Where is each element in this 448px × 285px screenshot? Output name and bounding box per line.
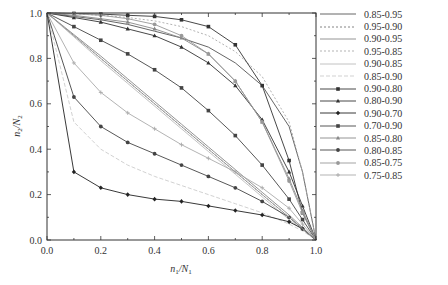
data-point: [207, 52, 211, 56]
data-point: [234, 134, 238, 138]
data-point: [233, 79, 237, 83]
y-tick-label: 0.2: [30, 189, 43, 200]
chart-legend: 0.85-0.950.95-0.900.90-0.950.95-0.850.90…: [318, 8, 402, 181]
x-tick-label: 0.2: [95, 245, 108, 256]
legend-swatch-icon: [318, 22, 358, 32]
legend-swatch-icon: [318, 84, 358, 94]
data-point: [233, 186, 237, 190]
legend-swatch-icon: [318, 59, 358, 69]
data-point: [72, 170, 76, 175]
legend-label: 0.90-0.85: [364, 58, 402, 69]
legend-item: 0.90-0.85: [318, 58, 402, 70]
legend-item: 0.90-0.95: [318, 33, 402, 45]
y-tick-label: 0.8: [30, 53, 43, 64]
data-point: [301, 211, 305, 215]
legend-marker-icon: [336, 173, 340, 177]
data-point: [206, 204, 210, 209]
data-point: [126, 140, 130, 144]
legend-swatch-icon: [318, 71, 358, 81]
legend-item: 0.85-0.90: [318, 70, 402, 82]
legend-label: 0.95-0.85: [364, 46, 402, 57]
legend-swatch-icon: [318, 34, 358, 44]
x-tick-label: 0.0: [41, 245, 54, 256]
legend-marker-icon: [336, 124, 340, 128]
data-point: [260, 120, 264, 124]
data-point: [260, 84, 264, 88]
legend-label: 0.90-0.95: [364, 33, 402, 44]
legend-marker-icon: [336, 149, 340, 153]
data-point: [126, 17, 130, 21]
legend-swatch-icon: [318, 158, 358, 168]
legend-label: 0.70-0.90: [364, 120, 402, 131]
data-point: [153, 68, 157, 72]
data-point: [207, 25, 211, 29]
y-tick-label: 0.4: [30, 144, 43, 155]
legend-label: 0.85-0.80: [364, 133, 402, 144]
legend-item: 0.95-0.90: [318, 20, 402, 32]
data-point: [99, 185, 103, 190]
data-point: [99, 125, 103, 129]
data-point: [207, 175, 211, 179]
legend-marker-icon: [336, 87, 340, 91]
legend-swatch-icon: [318, 46, 358, 56]
data-point: [180, 163, 184, 167]
data-point: [153, 152, 157, 156]
data-point: [260, 200, 264, 204]
data-point: [180, 34, 184, 38]
data-point: [153, 197, 157, 202]
x-tick-label: 0.4: [148, 245, 161, 256]
legend-swatch-icon: [318, 133, 358, 143]
legend-marker-icon: [336, 161, 340, 165]
data-point: [234, 43, 238, 47]
y-tick-label: 0.0: [30, 235, 43, 246]
data-point: [72, 95, 76, 99]
legend-swatch-icon: [318, 108, 358, 118]
legend-label: 0.85-0.75: [364, 157, 402, 168]
data-point: [260, 163, 264, 167]
legend-label: 0.80-0.90: [364, 95, 402, 106]
legend-item: 0.75-0.85: [318, 169, 402, 181]
data-point: [153, 22, 157, 26]
data-point: [287, 159, 291, 163]
legend-swatch-icon: [318, 9, 358, 19]
legend-item: 0.85-0.80: [318, 132, 402, 144]
legend-item: 0.70-0.90: [318, 120, 402, 132]
data-point: [287, 179, 291, 183]
x-axis-label: n1/N1: [170, 263, 192, 276]
legend-swatch-icon: [318, 121, 358, 131]
legend-item: 0.85-0.75: [318, 157, 402, 169]
legend-label: 0.85-0.90: [364, 71, 402, 82]
legend-swatch-icon: [318, 145, 358, 155]
data-point: [207, 109, 211, 113]
data-point: [287, 197, 291, 201]
plot-lines: [47, 12, 316, 240]
legend-swatch-icon: [318, 96, 358, 106]
data-point: [206, 156, 210, 160]
y-tick-label: 0.6: [30, 98, 43, 109]
y-axis-label: n2/N2: [11, 115, 24, 137]
data-point: [206, 61, 210, 65]
x-tick-label: 1.0: [310, 245, 323, 256]
legend-item: 0.95-0.85: [318, 45, 402, 57]
legend-label: 0.75-0.85: [364, 170, 402, 181]
data-point: [287, 170, 291, 174]
data-point: [126, 192, 130, 197]
legend-label: 0.85-0.95: [364, 9, 402, 20]
data-point: [126, 52, 130, 56]
y-tick-label: 1.0: [30, 8, 43, 19]
data-point: [153, 127, 157, 131]
x-tick-label: 0.8: [256, 245, 269, 256]
data-point: [180, 143, 184, 147]
x-tick-label: 0.6: [202, 245, 215, 256]
legend-item: 0.90-0.70: [318, 107, 402, 119]
legend-label: 0.90-0.70: [364, 108, 402, 119]
legend-swatch-icon: [318, 170, 358, 180]
data-point: [179, 199, 183, 204]
legend-label: 0.80-0.85: [364, 145, 402, 156]
data-point: [180, 86, 184, 90]
legend-item: 0.90-0.80: [318, 82, 402, 94]
legend-marker-icon: [336, 111, 340, 116]
data-point: [301, 218, 305, 222]
legend-label: 0.90-0.80: [364, 83, 402, 94]
legend-item: 0.80-0.85: [318, 144, 402, 156]
